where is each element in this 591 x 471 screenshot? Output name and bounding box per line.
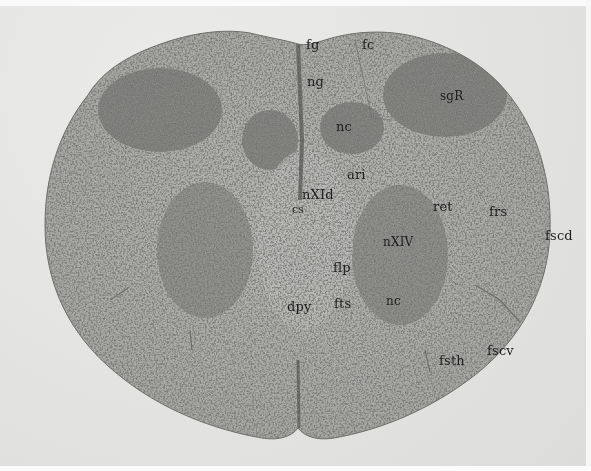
label-fts: fts <box>334 297 351 310</box>
label-ret: ret <box>433 200 453 213</box>
label-fscv: fscv <box>487 344 514 357</box>
label-nc-upper: nc <box>336 120 352 133</box>
label-fg: fg <box>306 38 320 51</box>
label-ng: ng <box>307 75 324 88</box>
tissue-section <box>0 0 591 471</box>
label-fscd: fscd <box>545 229 573 242</box>
label-nXId: nXId <box>302 188 334 201</box>
micrograph-plate: fg fc ng sgR nc ari nXId cs ret frs fscd… <box>0 0 591 471</box>
label-flp: flp <box>333 261 351 274</box>
label-ari: ari <box>347 168 366 181</box>
label-nc-lower: nc <box>386 295 401 307</box>
label-sgR: sgR <box>440 90 463 102</box>
label-nXIV: nXIV <box>383 236 413 248</box>
label-frs: frs <box>489 205 507 218</box>
label-fsth: fsth <box>439 354 465 367</box>
label-fc: fc <box>362 38 375 51</box>
label-cs: cs <box>292 204 304 215</box>
label-dpy: dpy <box>287 300 312 313</box>
